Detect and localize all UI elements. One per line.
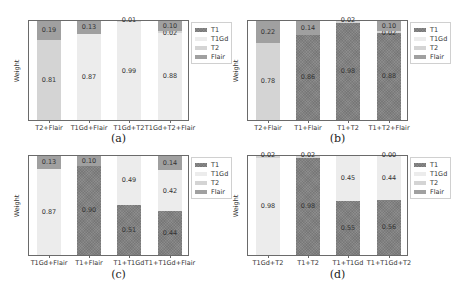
bar-segment-t1gd: 0.42 [158,170,182,212]
bar-segment-flair: 0.10 [158,21,182,31]
legend-label: T1Gd [430,170,447,178]
segment-value-label: 0.01 [122,17,136,24]
bar-segment-t2: 0.81 [37,40,61,120]
bar-segment-flair: 0.14 [158,156,182,170]
plot-area: 0.810.190.870.130.990.010.880.020.10 [28,20,189,121]
segment-value-label: 0.98 [261,203,275,210]
bar-segment-t1gd: 0.44 [377,156,401,200]
bar-segment-t1: 0.98 [296,158,320,255]
x-tick-label: T1Gd+T2+Flair [145,124,195,132]
legend-swatch [414,55,426,59]
legend-swatch [414,190,426,194]
bar-segment-t2: 0.02 [377,31,401,33]
subfigure-caption: (d) [330,268,346,281]
segment-value-label: 0.00 [382,152,396,159]
legend-item-t1gd: T1Gd [195,34,228,43]
legend-swatch [195,37,207,41]
legend-label: T1 [430,26,438,34]
x-tick-label: T1+T1Gd+T2 [367,259,411,267]
bar-segment-t1gd: 0.87 [77,34,101,120]
legend: T1T1GdT2Flair [191,22,232,64]
segment-value-label: 0.14 [301,25,315,32]
segment-value-label: 0.55 [341,225,355,232]
bar-segment-t1: 0.56 [377,200,401,255]
legend-item-t1: T1 [195,25,228,34]
bar-segment-t1: 0.86 [296,35,320,120]
legend: T1T1GdT2Flair [191,157,232,199]
bar-segment-t1: 0.88 [377,33,401,120]
stacked-bar: 0.510.49 [117,156,141,255]
legend: T1T1GdT2Flair [410,157,451,199]
x-tick-mark [170,256,171,258]
segment-value-label: 0.02 [301,152,315,159]
bar-segment-t1gd: 0.88 [158,33,182,120]
x-tick-label: T1+T1Gd [114,259,145,267]
x-tick-label: T2+Flair [254,124,282,132]
legend-item-flair: Flair [414,52,447,61]
x-tick-mark [49,121,50,123]
legend-swatch [195,46,207,50]
x-tick-label: T1+T2+Flair [368,124,409,132]
x-tick-mark [308,121,309,123]
x-tick-label: T1+T2 [337,124,359,132]
bar-segment-t1: 0.51 [117,205,141,255]
segment-value-label: 0.22 [261,29,275,36]
plot-area: 0.980.020.980.020.550.450.560.440.00 [247,155,408,256]
x-tick-mark [129,256,130,258]
segment-value-label: 0.02 [341,17,355,24]
legend-swatch [414,163,426,167]
x-tick-mark [389,121,390,123]
stacked-bar: 0.440.420.14 [158,156,182,255]
segment-value-label: 0.10 [382,23,396,30]
x-tick-mark [89,256,90,258]
legend-swatch [414,37,426,41]
bar-segment-flair: 0.13 [37,156,61,169]
segment-value-label: 0.44 [382,175,396,182]
segment-value-label: 0.44 [163,230,177,237]
subfigure-caption: (b) [330,132,346,145]
segment-value-label: 0.13 [82,24,96,31]
bar-segment-t2: 0.02 [256,156,280,158]
legend: T1T1GdT2Flair [410,22,451,64]
bar-segment-t1: 0.90 [77,166,101,255]
segment-value-label: 0.14 [163,160,177,167]
legend-label: T1 [430,161,438,169]
bar-segment-t1gd: 0.87 [37,169,61,255]
bar-segment-flair: 0.14 [296,21,320,35]
x-tick-mark [389,256,390,258]
x-tick-mark [170,121,171,123]
stacked-bar: 0.780.22 [256,21,280,120]
segment-value-label: 0.98 [341,68,355,75]
x-tick-mark [89,121,90,123]
segment-value-label: 0.49 [122,177,136,184]
legend-swatch [195,190,207,194]
x-tick-label: T1Gd+T2 [114,124,145,132]
bar-segment-flair: 0.10 [77,156,101,166]
legend-label: T2 [430,44,438,52]
legend-label: T1Gd [430,35,447,43]
bar-segment-flair: 0.10 [377,21,401,31]
x-tick-mark [308,256,309,258]
x-tick-label: T1+Flair [75,259,103,267]
x-tick-mark [129,121,130,123]
segment-value-label: 0.19 [42,27,56,34]
legend-swatch [414,181,426,185]
segment-value-label: 0.88 [163,73,177,80]
x-tick-label: T1+T1Gd+Flair [145,259,195,267]
stacked-bar: 0.870.13 [77,21,101,120]
plot-area: 0.780.220.860.140.980.020.880.020.10 [247,20,408,121]
x-tick-label: T1Gd+T2 [253,259,284,267]
bar-segment-flair: 0.22 [256,21,280,43]
legend-item-t1gd: T1Gd [195,169,228,178]
legend-label: T2 [211,179,219,187]
stacked-bar: 0.810.19 [37,21,61,120]
stacked-bar: 0.980.02 [296,156,320,255]
plot-area: 0.870.130.900.100.510.490.440.420.14 [28,155,189,256]
legend-label: Flair [430,53,444,61]
legend-label: Flair [211,188,225,196]
bar-segment-t1gd: 0.99 [117,22,141,120]
segment-value-label: 0.87 [82,74,96,81]
segment-value-label: 0.90 [82,207,96,214]
bar-segment-t2: 0.78 [256,43,280,120]
legend-label: Flair [430,188,444,196]
